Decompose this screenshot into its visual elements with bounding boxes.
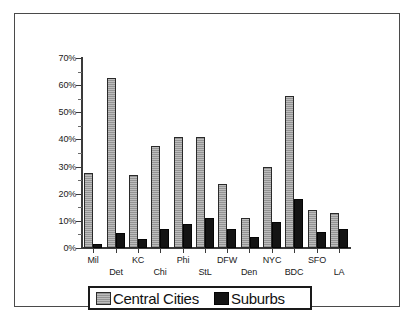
x-axis-tick-label: Det	[99, 267, 133, 277]
legend-item-central-cities: Central Cities	[96, 291, 199, 306]
plot-area	[82, 58, 350, 248]
bar-central-cities	[196, 137, 205, 248]
y-axis-tick-label: 20%	[40, 190, 76, 199]
x-axis-tick-label: NYC	[255, 255, 289, 265]
bar-suburbs	[160, 229, 169, 248]
bar-suburbs	[317, 232, 326, 248]
bar-central-cities	[84, 173, 93, 248]
y-axis-tick-label: 70%	[40, 54, 76, 63]
bar-group	[151, 58, 169, 248]
bar-suburbs	[183, 224, 192, 248]
x-axis-tick-label: SFO	[300, 255, 334, 265]
y-axis-tick-label: 50%	[40, 108, 76, 117]
y-axis-tick-label: 0%	[40, 244, 76, 253]
bar-central-cities	[285, 96, 294, 248]
x-axis-tick	[116, 248, 117, 253]
x-axis-tick	[249, 248, 250, 253]
bar-suburbs	[138, 239, 147, 249]
x-axis-tick	[93, 248, 94, 253]
bar-suburbs	[339, 229, 348, 248]
bar-suburbs	[272, 222, 281, 248]
chart-figure: 70%60%50%40%30%20%10%0% MilDetKCChiPhiSt…	[0, 0, 417, 324]
bar-central-cities	[107, 78, 116, 248]
bar-group	[107, 58, 125, 248]
bar-central-cities	[308, 210, 317, 248]
y-axis-tick-label: 10%	[40, 217, 76, 226]
y-axis-labels: 70%60%50%40%30%20%10%0%	[32, 0, 76, 324]
bar-central-cities	[174, 137, 183, 248]
bar-group	[196, 58, 214, 248]
suburbs-swatch	[214, 292, 229, 305]
x-axis-tick	[160, 248, 161, 253]
x-axis-tick-label: Phi	[166, 255, 200, 265]
bar-central-cities	[129, 175, 138, 248]
bar-group	[241, 58, 259, 248]
bar-central-cities	[330, 213, 339, 248]
x-axis-tick-label: StL	[188, 267, 222, 277]
bar-group	[129, 58, 147, 248]
bar-group	[263, 58, 281, 248]
bar-central-cities	[218, 184, 227, 248]
x-axis-tick-label: KC	[121, 255, 155, 265]
x-axis-tick	[183, 248, 184, 253]
legend-label-central-cities: Central Cities	[113, 291, 199, 306]
x-axis-tick	[317, 248, 318, 253]
x-axis-tick	[138, 248, 139, 253]
bar-group	[174, 58, 192, 248]
x-axis-tick-label: DFW	[210, 255, 244, 265]
bar-group	[308, 58, 326, 248]
legend-item-suburbs: Suburbs	[214, 291, 285, 306]
bar-suburbs	[250, 237, 259, 248]
bar-central-cities	[263, 167, 272, 248]
legend-label-suburbs: Suburbs	[231, 291, 285, 306]
x-axis-tick-label: Den	[232, 267, 266, 277]
y-axis-tick-label: 40%	[40, 135, 76, 144]
bar-central-cities	[241, 218, 250, 248]
bar-suburbs	[294, 199, 303, 248]
chart-legend: Central Cities Suburbs	[88, 286, 312, 310]
bar-group	[330, 58, 348, 248]
x-axis-tick	[205, 248, 206, 253]
x-axis-tick-label: Mil	[76, 255, 110, 265]
bar-group	[285, 58, 303, 248]
x-axis-tick	[294, 248, 295, 253]
x-axis-tick-label: Chi	[143, 267, 177, 277]
x-axis-tick	[339, 248, 340, 253]
central-cities-swatch	[96, 292, 111, 305]
bar-suburbs	[93, 244, 102, 248]
y-axis-tick	[76, 248, 82, 249]
bar-suburbs	[116, 233, 125, 248]
bar-suburbs	[205, 218, 214, 248]
x-axis-tick	[272, 248, 273, 253]
y-axis-tick-label: 60%	[40, 81, 76, 90]
x-axis-tick	[227, 248, 228, 253]
x-axis-tick-label: LA	[322, 267, 356, 277]
bar-central-cities	[151, 146, 160, 248]
bar-group	[84, 58, 102, 248]
x-axis-tick-label: BDC	[277, 267, 311, 277]
y-axis-tick-label: 30%	[40, 163, 76, 172]
bar-group	[218, 58, 236, 248]
bar-suburbs	[227, 229, 236, 248]
